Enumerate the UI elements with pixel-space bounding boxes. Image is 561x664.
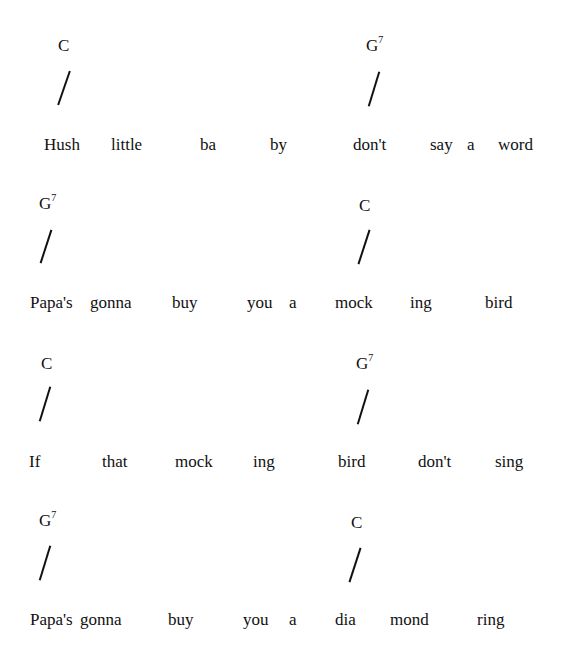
lyric-word: bird xyxy=(338,452,365,472)
lyric-word: a xyxy=(289,610,297,630)
lyric-word: you xyxy=(243,610,269,630)
chord-root: C xyxy=(41,354,52,373)
chord-root: C xyxy=(351,513,362,532)
lyric-word: that xyxy=(102,452,128,472)
chord-extension: 7 xyxy=(368,352,373,363)
lyric-word: dia xyxy=(335,610,356,630)
chord-extension: 7 xyxy=(378,34,383,45)
chord-symbol: G7 xyxy=(39,194,56,214)
lyric-word: Papa's xyxy=(30,293,73,313)
lyric-word: Papa's xyxy=(30,610,73,630)
lyric-word: gonna xyxy=(90,293,132,313)
lyric-word: don't xyxy=(353,135,386,155)
lyric-word: mond xyxy=(390,610,429,630)
lyric-word: you xyxy=(247,293,273,313)
chord-extension: 7 xyxy=(51,192,56,203)
lyric-word: say xyxy=(430,135,453,155)
lyric-word: bird xyxy=(485,293,512,313)
chord-symbol: G7 xyxy=(39,511,56,531)
lyric-word: If xyxy=(29,452,40,472)
chord-root: C xyxy=(359,196,370,215)
beat-slash-icon xyxy=(357,230,370,265)
lyric-word: gonna xyxy=(80,610,122,630)
lyric-word: ring xyxy=(477,610,504,630)
lyric-word: mock xyxy=(175,452,213,472)
lyric-word: word xyxy=(498,135,533,155)
beat-slash-icon xyxy=(57,71,71,106)
chord-root: G xyxy=(356,354,368,373)
beat-slash-icon xyxy=(39,386,51,421)
beat-slash-icon xyxy=(357,389,369,424)
chord-symbol: C xyxy=(359,196,370,216)
beat-slash-icon xyxy=(39,545,51,580)
lyric-word: little xyxy=(111,135,142,155)
lyric-word: a xyxy=(289,293,297,313)
beat-slash-icon xyxy=(40,230,53,264)
lyric-word: ing xyxy=(410,293,432,313)
chord-root: G xyxy=(366,36,378,55)
chord-root: G xyxy=(39,511,51,530)
chord-root: G xyxy=(39,194,51,213)
lyric-word: ba xyxy=(200,135,216,155)
chord-root: C xyxy=(58,36,69,55)
chord-symbol: C xyxy=(58,36,69,56)
lyric-word: a xyxy=(467,135,475,155)
beat-slash-icon xyxy=(348,548,361,583)
lyric-word: by xyxy=(270,135,287,155)
lyric-word: buy xyxy=(172,293,198,313)
chord-symbol: C xyxy=(41,354,52,374)
lyric-word: don't xyxy=(418,452,451,472)
chord-symbol: G7 xyxy=(356,354,373,374)
beat-slash-icon xyxy=(368,71,380,106)
chord-symbol: G7 xyxy=(366,36,383,56)
lyric-word: mock xyxy=(335,293,373,313)
lyric-word: Hush xyxy=(44,135,80,155)
lyric-word: sing xyxy=(495,452,523,472)
chord-extension: 7 xyxy=(51,509,56,520)
lyric-word: ing xyxy=(253,452,275,472)
lyric-word: buy xyxy=(168,610,194,630)
chord-symbol: C xyxy=(351,513,362,533)
